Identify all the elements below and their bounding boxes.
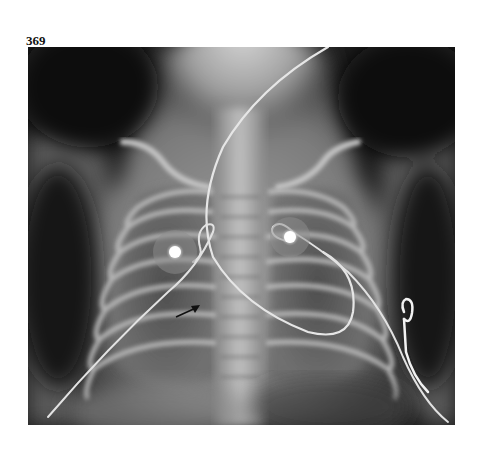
xray-graphic bbox=[28, 47, 455, 425]
chest-xray-image bbox=[28, 47, 455, 425]
